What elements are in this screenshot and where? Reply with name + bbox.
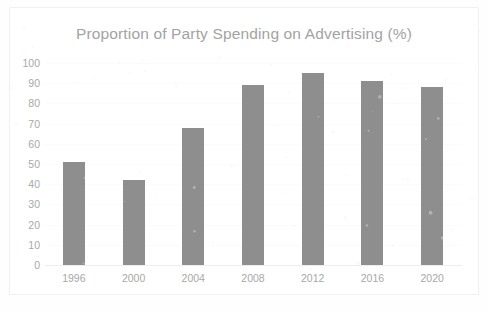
bar [421,87,443,265]
y-tick-label: 10 [2,239,40,251]
x-tick-label: 2012 [285,272,341,284]
x-tick-label: 2016 [344,272,400,284]
bar [182,128,204,265]
x-axis-line [44,265,462,266]
bar [123,180,145,265]
x-tick-label: 1996 [46,272,102,284]
y-tick-label: 40 [2,178,40,190]
bar [63,162,85,265]
gridline [44,63,462,64]
x-tick-label: 2004 [165,272,221,284]
y-tick-label: 90 [2,77,40,89]
bar [361,81,383,265]
y-axis: 0102030405060708090100 [0,0,40,312]
x-tick-label: 2008 [225,272,281,284]
gridline [44,83,462,84]
chart-title: Proportion of Party Spending on Advertis… [0,25,488,43]
chart-figure: Proportion of Party Spending on Advertis… [0,0,488,312]
y-tick-label: 70 [2,118,40,130]
y-tick-label: 100 [2,57,40,69]
x-tick-label: 2020 [404,272,460,284]
y-tick-label: 80 [2,97,40,109]
y-tick-label: 20 [2,219,40,231]
y-tick-label: 30 [2,198,40,210]
x-tick-label: 2000 [106,272,162,284]
y-tick-label: 0 [2,259,40,271]
y-tick-label: 50 [2,158,40,170]
bar [242,85,264,265]
bar [302,73,324,265]
y-tick-label: 60 [2,138,40,150]
plot-area [44,63,462,265]
